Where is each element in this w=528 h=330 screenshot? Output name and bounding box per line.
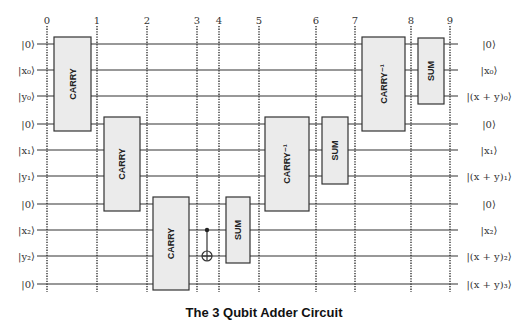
gate-label: CARRY⁻¹ — [282, 144, 292, 184]
time-step-label: 6 — [313, 15, 319, 26]
gate-carry: CARRY — [54, 37, 91, 131]
cnot-control-dot — [205, 228, 209, 232]
time-step-label: 8 — [408, 15, 414, 26]
output-ket-label: |(x + y)₃⟩ — [466, 279, 511, 291]
output-ket-label: |0⟩ — [482, 199, 496, 211]
output-ket-label: |(x + y)₂⟩ — [466, 251, 511, 263]
time-step-label: 1 — [94, 15, 100, 26]
input-ket-label: |0⟩ — [21, 39, 35, 51]
input-ket-label: |x₀⟩ — [18, 65, 35, 77]
output-ket-label: |(x + y)₀⟩ — [466, 91, 511, 103]
cnot-gate — [202, 228, 212, 261]
time-step-label: 2 — [144, 15, 150, 26]
gate-label: CARRY — [68, 68, 78, 100]
gates: CARRYCARRYCARRYSUMCARRY⁻¹SUMCARRY⁻¹SUM — [54, 37, 444, 290]
input-ket-label: |0⟩ — [21, 279, 35, 291]
gate-label: CARRY — [166, 228, 176, 260]
gate-carry: CARRY — [153, 197, 189, 290]
gate-label: CARRY — [117, 148, 127, 180]
time-step-label: 0 — [44, 15, 50, 26]
input-ket-label: |x₁⟩ — [18, 145, 35, 157]
gate-label: SUM — [330, 141, 340, 161]
output-ket-label: |x₂⟩ — [481, 225, 498, 237]
input-ket-label: |y₀⟩ — [18, 91, 35, 103]
gate-label: SUM — [426, 61, 436, 81]
gate-sum: SUM — [226, 197, 250, 263]
output-ket-label: |x₀⟩ — [481, 65, 498, 77]
gate-carry-inverse: CARRY⁻¹ — [265, 117, 309, 211]
input-ket-label: |y₁⟩ — [18, 171, 35, 183]
output-ket-label: |0⟩ — [482, 119, 496, 131]
time-step-label: 9 — [447, 15, 453, 26]
input-ket-label: |x₂⟩ — [18, 225, 35, 237]
gate-label: CARRY⁻¹ — [379, 64, 389, 104]
time-step-label: 7 — [352, 15, 358, 26]
gate-carry-inverse: CARRY⁻¹ — [362, 37, 405, 131]
output-ket-label: |x₁⟩ — [481, 145, 498, 157]
gate-sum: SUM — [418, 38, 444, 104]
adder-circuit-diagram: 0123456789 CARRYCARRYCARRYSUMCARRY⁻¹SUMC… — [0, 0, 528, 300]
output-ket-label: |(x + y)₁⟩ — [466, 171, 511, 183]
gate-label: SUM — [233, 220, 243, 240]
input-ket-label: |0⟩ — [21, 199, 35, 211]
time-step-label: 3 — [194, 15, 200, 26]
time-step-label: 5 — [256, 15, 262, 26]
figure-caption: The 3 Qubit Adder Circuit — [0, 305, 528, 320]
gate-sum: SUM — [322, 117, 348, 184]
input-ket-label: |y₂⟩ — [18, 251, 35, 263]
input-ket-label: |0⟩ — [21, 119, 35, 131]
output-ket-label: |0⟩ — [482, 39, 496, 51]
gate-carry: CARRY — [104, 117, 140, 211]
time-step-label: 4 — [216, 15, 222, 26]
